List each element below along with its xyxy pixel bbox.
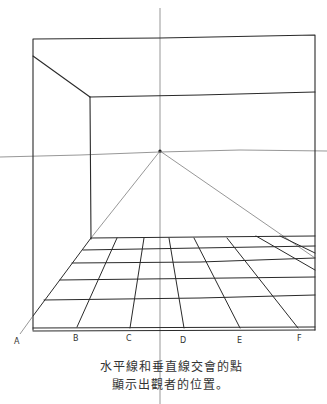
perspective-drawing bbox=[0, 0, 327, 404]
caption: 水平線和垂直線交會的點 顯示出觀者的位置。 bbox=[100, 358, 320, 394]
floor-label-c: C bbox=[126, 334, 132, 343]
back-wall-left-edge bbox=[90, 97, 91, 239]
caption-line-2: 顯示出觀者的位置。 bbox=[100, 376, 320, 394]
extension-line-a bbox=[20, 316, 33, 334]
floor-label-d: D bbox=[180, 336, 186, 345]
floor-label-e: E bbox=[237, 336, 242, 345]
floor-label-f: F bbox=[297, 334, 302, 343]
construction-line-left bbox=[91, 151, 160, 238]
caption-line-1: 水平線和垂直線交會的點 bbox=[100, 358, 320, 376]
floor-radial-lines bbox=[33, 236, 315, 328]
side-wall-top-edge bbox=[33, 56, 90, 97]
floor-label-b: B bbox=[73, 334, 79, 343]
outer-frame bbox=[33, 35, 315, 330]
back-wall-top-edge bbox=[90, 92, 315, 97]
floor-label-a: A bbox=[14, 337, 19, 346]
